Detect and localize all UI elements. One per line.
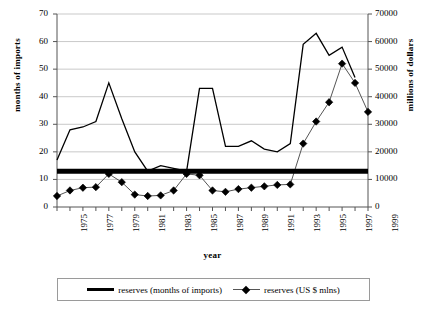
y-axis-left-tick-label: 40 xyxy=(14,91,48,101)
y-axis-right-tick-label: 60000 xyxy=(375,36,419,46)
legend-label-months: reserves (months of imports) xyxy=(118,285,222,295)
y-axis-left-tick-label: 50 xyxy=(14,63,48,73)
x-axis-tick-label: 1991 xyxy=(286,214,296,232)
y-axis-right-tick-label: 20000 xyxy=(375,146,419,156)
y-axis-right-tick-label: 70000 xyxy=(375,8,419,18)
data-point-marker xyxy=(325,99,332,106)
data-point-marker xyxy=(144,192,151,199)
y-axis-left-tick-label: 20 xyxy=(14,146,48,156)
chart-plot-area xyxy=(0,0,425,310)
y-axis-right-tick-label: 10000 xyxy=(375,173,419,183)
x-axis-tick-label: 1993 xyxy=(312,214,322,232)
y-axis-right-tick-label: 40000 xyxy=(375,91,419,101)
x-axis-tick-label: 1983 xyxy=(183,214,193,232)
x-axis-tick-label: 1985 xyxy=(209,214,219,232)
x-axis-tick-label: 1999 xyxy=(390,214,400,232)
data-point-marker xyxy=(235,185,242,192)
data-point-marker xyxy=(287,181,294,188)
x-axis-tick-label: 1989 xyxy=(260,214,270,232)
legend-swatch-diamond-line xyxy=(233,285,260,294)
data-point-marker xyxy=(338,60,345,67)
data-point-marker xyxy=(222,188,229,195)
data-point-marker xyxy=(300,140,307,147)
series-line-0 xyxy=(57,33,355,171)
x-axis-tick-label: 1981 xyxy=(157,214,167,232)
x-axis-tick-label: 1987 xyxy=(235,214,245,232)
legend-item-months: reserves (months of imports) xyxy=(87,285,222,295)
data-point-marker xyxy=(248,184,255,191)
diamond-marker-icon xyxy=(242,285,250,293)
data-point-marker xyxy=(274,181,281,188)
x-axis-tick-label: 1995 xyxy=(338,214,348,232)
data-point-marker xyxy=(79,184,86,191)
x-axis-tick-label: 1977 xyxy=(105,214,115,232)
data-point-marker xyxy=(157,192,164,199)
data-point-marker xyxy=(364,108,371,115)
legend-item-usd: reserves (US $ mlns) xyxy=(233,285,340,295)
series-line-1 xyxy=(57,64,368,196)
x-axis-tick-label: 1975 xyxy=(79,214,89,232)
legend-swatch-thick-line xyxy=(87,288,114,291)
chart-legend: reserves (months of imports) reserves (U… xyxy=(57,278,370,301)
y-axis-left-tick-label: 70 xyxy=(14,8,48,18)
chart-container: months of imports millions of dollars ye… xyxy=(0,0,425,310)
data-point-marker xyxy=(66,187,73,194)
x-axis-title: year xyxy=(0,250,425,260)
y-axis-left-tick-label: 0 xyxy=(14,201,48,211)
y-axis-right-tick-label: 0 xyxy=(375,201,419,211)
legend-label-usd: reserves (US $ mlns) xyxy=(264,285,340,295)
y-axis-left-tick-label: 10 xyxy=(14,173,48,183)
data-point-marker xyxy=(261,183,268,190)
y-axis-right-tick-label: 30000 xyxy=(375,118,419,128)
data-point-marker xyxy=(53,192,60,199)
x-axis-tick-label: 1979 xyxy=(131,214,141,232)
data-point-marker xyxy=(351,79,358,86)
y-axis-left-tick-label: 30 xyxy=(14,118,48,128)
x-axis-tick-label: 1997 xyxy=(364,214,374,232)
y-axis-right-tick-label: 50000 xyxy=(375,63,419,73)
y-axis-left-tick-label: 60 xyxy=(14,36,48,46)
